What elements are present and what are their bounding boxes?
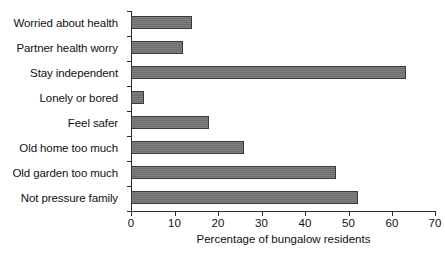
x-axis-tick-1 (175, 212, 176, 216)
x-axis-title: Percentage of bungalow residents (131, 233, 436, 245)
x-axis-ticklabel-4: 40 (285, 217, 325, 229)
y-axis-label-6: Old garden too much (13, 161, 119, 185)
y-axis-tick-4 (127, 111, 131, 112)
bar-stay-independent (131, 66, 406, 79)
bar-old-home-too-much (131, 141, 244, 154)
bar-partner-health-worry (131, 41, 183, 54)
x-axis-ticklabel-6: 60 (372, 217, 412, 229)
x-axis-ticklabel-1: 10 (155, 217, 195, 229)
y-axis-label-0: Worried about health (13, 11, 118, 35)
x-axis-tick-5 (349, 212, 350, 216)
bar-old-garden-too-much (131, 166, 336, 179)
plot-area: 0 10 20 30 40 50 60 70 (131, 11, 436, 211)
y-axis-label-3: Lonely or bored (40, 86, 118, 110)
y-axis-category-labels: Worried about health Partner health worr… (0, 11, 124, 211)
y-axis-label-1: Partner health worry (16, 36, 118, 60)
x-axis-ticklabel-5: 50 (329, 217, 369, 229)
x-axis-ticklabel-7: 70 (415, 217, 445, 229)
x-axis-tick-4 (305, 212, 306, 216)
x-axis-ticklabel-0: 0 (111, 217, 151, 229)
y-axis-label-5: Old home too much (19, 136, 118, 160)
x-axis-line (131, 211, 436, 212)
bar-lonely-or-bored (131, 91, 144, 104)
y-axis-tick-1 (127, 36, 131, 37)
x-axis-tick-6 (392, 212, 393, 216)
y-axis-tick-3 (127, 86, 131, 87)
bar-chart: Worried about health Partner health worr… (0, 0, 445, 256)
bar-not-pressure-family (131, 191, 358, 204)
y-axis-tick-5 (127, 136, 131, 137)
y-axis-tick-7 (127, 186, 131, 187)
x-axis-tick-3 (262, 212, 263, 216)
x-axis-ticklabel-2: 20 (198, 217, 238, 229)
bar-worried-about-health (131, 16, 192, 29)
y-axis-label-7: Not pressure family (21, 186, 118, 210)
y-axis-tick-2 (127, 61, 131, 62)
y-axis-tick-6 (127, 161, 131, 162)
x-axis-tick-2 (218, 212, 219, 216)
y-axis-label-4: Feel safer (68, 111, 118, 135)
x-axis-tick-0 (131, 212, 132, 216)
bar-feel-safer (131, 116, 209, 129)
x-axis-tick-7 (435, 212, 436, 216)
x-axis-ticklabel-3: 30 (242, 217, 282, 229)
y-axis-label-2: Stay independent (30, 61, 118, 85)
y-axis-tick-0 (127, 11, 131, 12)
